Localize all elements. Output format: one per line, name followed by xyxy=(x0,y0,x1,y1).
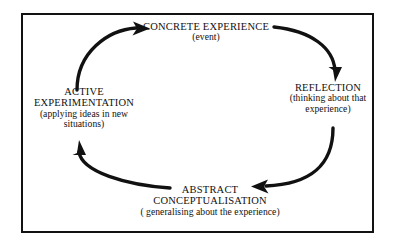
node-concrete-experience: CONCRETE EXPERIENCE (event) xyxy=(118,21,294,43)
node-active-experimentation-title-line2: EXPERIMENTATION xyxy=(14,97,154,108)
node-active-experimentation-title-line1: ACTIVE xyxy=(14,86,154,97)
node-concrete-experience-subtitle: (event) xyxy=(118,32,294,42)
learning-cycle-diagram: CONCRETE EXPERIENCE (event) REFLECTION (… xyxy=(0,0,393,247)
node-active-experimentation: ACTIVE EXPERIMENTATION (applying ideas i… xyxy=(14,86,154,129)
node-abstract-conceptualisation-subtitle: ( generalising about the experience) xyxy=(112,207,308,217)
node-abstract-conceptualisation-title-line2: CONCEPTUALISATION xyxy=(112,195,308,206)
node-abstract-conceptualisation: ABSTRACT CONCEPTUALISATION ( generalisin… xyxy=(112,184,308,217)
node-abstract-conceptualisation-title-line1: ABSTRACT xyxy=(112,184,308,195)
node-reflection: REFLECTION (thinking about that experien… xyxy=(272,82,384,114)
node-active-experimentation-subtitle-line2: situations) xyxy=(14,119,154,129)
node-reflection-subtitle-line2: experience) xyxy=(272,104,384,114)
